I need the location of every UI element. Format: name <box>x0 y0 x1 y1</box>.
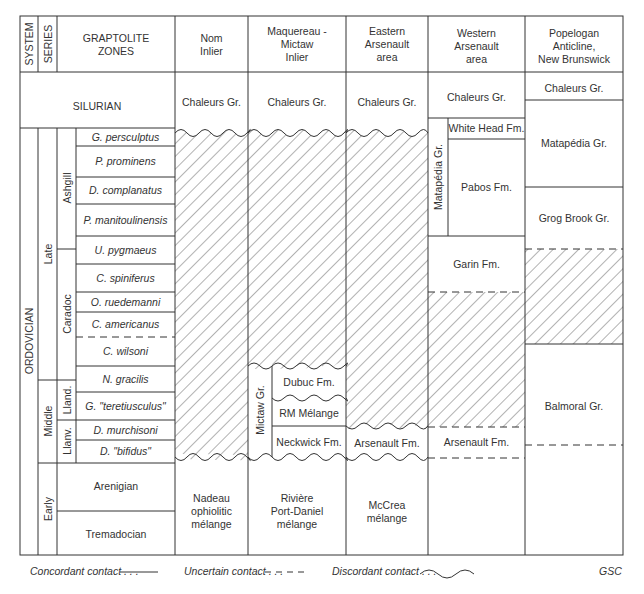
header-maq-line2: Mictaw <box>281 38 314 50</box>
nom-base-line1: Nadeau <box>193 492 230 504</box>
series-middle: Middle <box>42 405 54 436</box>
maq-base-line3: mélange <box>277 518 317 530</box>
east-base-line1: McCrea <box>369 499 406 511</box>
maq-chaleurs: Chaleurs Gr. <box>268 96 327 108</box>
nom-base-line2: ophiolitic <box>191 505 232 517</box>
stage-lland: Lland. <box>61 386 73 415</box>
zone: D. complanatus <box>89 184 163 196</box>
header-zones-line2: ZONES <box>98 45 134 57</box>
zone: C. wilsoni <box>103 345 149 357</box>
legend-uncertain: Uncertain contact . . . <box>184 565 283 577</box>
dubuc-fm: Dubuc Fm. <box>283 376 334 388</box>
header-series: SERIES <box>42 25 54 64</box>
header-system: SYSTEM <box>23 22 35 65</box>
silurian-label: SILURIAN <box>73 100 121 112</box>
mictaw-group: Mictaw Gr. <box>254 385 266 435</box>
rm-melange: RM Mélange <box>279 407 339 419</box>
header-east-line3: area <box>376 51 397 63</box>
garin-fm: Garin Fm. <box>453 258 500 270</box>
header-pope-line1: Popelogan <box>549 27 599 39</box>
west-arsenault-fm: Arsenault Fm. <box>444 436 509 448</box>
stage-tremadocian: Tremadocian <box>86 528 147 540</box>
header-pope-line3: New Brunswick <box>538 53 611 65</box>
zone: C. spiniferus <box>96 272 155 284</box>
east-arsenault-fm: Arsenault Fm. <box>354 437 419 449</box>
maq-base-line1: Rivière <box>281 492 314 504</box>
legend-credit: GSC <box>599 565 622 577</box>
stage-llanv: Llanv. <box>61 427 73 454</box>
white-head-fm: White Head Fm. <box>449 122 525 134</box>
stage-arenigian: Arenigian <box>94 480 139 492</box>
pope-chaleurs: Chaleurs Gr. <box>545 82 604 94</box>
series-late: Late <box>42 244 54 265</box>
zone: C. americanus <box>92 318 160 330</box>
zone: U. pygmaeus <box>95 244 158 256</box>
pabos-fm: Pabos Fm. <box>461 181 512 193</box>
header-maq-line1: Maquereau - <box>267 25 327 37</box>
east-base-line2: mélange <box>367 512 407 524</box>
stage-ashgill: Ashgill <box>61 173 73 204</box>
west-matapedia-group: Matapédia Gr. <box>432 144 444 210</box>
zone: G. persculptus <box>92 131 160 143</box>
legend-discordant: Discordant contact . . . <box>332 565 436 577</box>
header-zones-line1: GRAPTOLITE <box>83 32 149 44</box>
grog-brook-gr: Grog Brook Gr. <box>539 212 610 224</box>
series-early: Early <box>42 496 54 521</box>
legend: Concordant contact . . . Uncertain conta… <box>30 565 622 578</box>
legend-concordant: Concordant contact . . . <box>30 565 139 577</box>
zone: P. manitoulinensis <box>84 214 169 226</box>
header-west-line1: Western <box>457 27 496 39</box>
west-chaleurs: Chaleurs Gr. <box>447 91 506 103</box>
header-west-line3: area <box>466 53 487 65</box>
pope-matapedia-gr: Matapédia Gr. <box>541 137 607 149</box>
maq-base-line2: Port-Daniel <box>271 505 324 517</box>
header-east-line1: Eastern <box>369 25 405 37</box>
zone: D. murchisoni <box>93 424 158 436</box>
header-maq-line3: Inlier <box>286 51 309 63</box>
east-chaleurs: Chaleurs Gr. <box>358 96 417 108</box>
nom-base-line3: mélange <box>191 518 231 530</box>
zone: P. prominens <box>95 155 156 167</box>
system-ordovician: ORDOVICIAN <box>23 308 35 375</box>
balmoral-gr: Balmoral Gr. <box>545 400 603 412</box>
zone: N. gracilis <box>102 373 149 385</box>
zone: G. "teretiusculus" <box>85 400 167 412</box>
header-east-line2: Arsenault <box>365 38 409 50</box>
stage-caradoc: Caradoc <box>61 294 73 334</box>
zone: O. ruedemanni <box>91 296 161 308</box>
zone: D. "bifidus" <box>100 445 152 457</box>
header-pope-line2: Anticline, <box>553 40 596 52</box>
correlation-chart: SYSTEM SERIES GRAPTOLITE ZONES Nom Inlie… <box>0 0 644 594</box>
nom-chaleurs: Chaleurs Gr. <box>182 96 241 108</box>
header-west-line2: Arsenault <box>454 40 498 52</box>
neckwick-fm: Neckwick Fm. <box>276 436 341 448</box>
header-nom-line2: Inlier <box>200 45 223 57</box>
header-nom-line1: Nom <box>200 32 222 44</box>
